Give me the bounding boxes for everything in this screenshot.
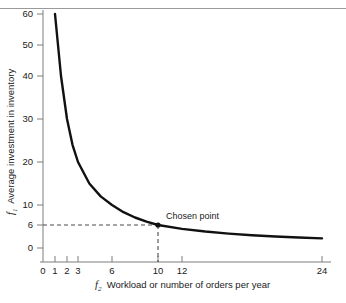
y-axis-title-text: Average investment in inventory [5,69,16,204]
x-tick-label: 24 [317,265,328,276]
y-tick-label: 0 [28,242,33,253]
y-tick-label: 60 [22,8,33,19]
svg-text:f1 Average investment in inve: f1 Average investment in inventory [5,69,19,215]
y-axis-ticks: 06102030405060 [22,8,43,253]
x-tick-label: 10 [153,265,164,276]
chosen-point-label: Chosen point [166,211,220,221]
y-tick-label: 40 [22,70,33,81]
chosen-point-marker [155,222,160,227]
y-axis-title: f1 Average investment in inventory [5,69,19,215]
x-tick-label: 6 [109,265,114,276]
x-tick-label: 3 [75,265,80,276]
y-tick-label: 10 [22,199,33,210]
x-tick-label: 1 [52,265,57,276]
x-axis-title-text: Workload or number of orders per year [107,279,271,290]
y-tick-label: 20 [22,156,33,167]
x-tick-label: 2 [64,265,69,276]
y-tick-label: 6 [28,219,33,230]
x-axis-ticks: 01236101224 [40,256,327,276]
chart-canvas: 06102030405060 01236101224 Chosen point … [0,0,346,303]
x-tick-label: 12 [177,265,188,276]
y-tick-label: 50 [22,39,33,50]
data-curve [55,14,322,238]
x-tick-label: 0 [40,265,45,276]
svg-text:f2 Workload or number of orde: f2 Workload or number of orders per year [95,279,270,293]
y-tick-label: 30 [22,113,33,124]
x-axis-title: f2 Workload or number of orders per year [95,279,270,293]
figure-container: 06102030405060 01236101224 Chosen point … [0,0,346,303]
